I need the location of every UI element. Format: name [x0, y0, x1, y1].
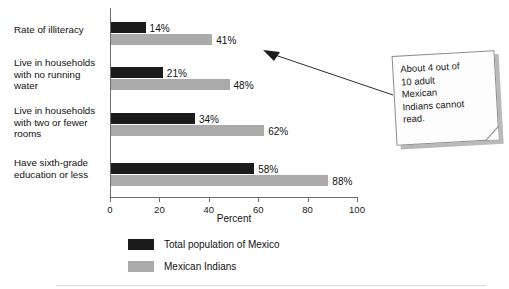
bar-chart-figure: Rate of illiteracy Live in households wi…: [0, 0, 509, 289]
category-label-line: water: [14, 80, 108, 92]
category-label-line: rooms: [14, 128, 108, 140]
x-axis-tick: [357, 198, 358, 202]
bar: [111, 79, 230, 90]
category-label-line: with no running: [14, 69, 108, 81]
bar-value-label: 41%: [216, 35, 236, 46]
note-curled-corner-icon: [483, 124, 500, 141]
x-axis-tick: [209, 198, 210, 202]
chart-legend: Total population of Mexico Mexican India…: [128, 236, 280, 280]
bar: [111, 125, 264, 136]
x-axis-tick: [308, 198, 309, 202]
legend-label: Total population of Mexico: [164, 239, 280, 250]
category-label-line: Live in households: [14, 57, 108, 69]
legend-item-mexican-indians: Mexican Indians: [128, 258, 280, 274]
bar-value-label: 58%: [258, 164, 278, 175]
x-axis-tick: [258, 198, 259, 202]
bar: [111, 22, 146, 33]
x-axis-tick: [110, 198, 111, 202]
bar: [111, 175, 328, 186]
callout-note: About 4 out of 10 adult Mexican Indians …: [392, 50, 500, 146]
note-text: About 4 out of 10 adult Mexican Indians …: [400, 59, 492, 127]
bar-value-label: 62%: [268, 126, 288, 137]
category-label-line: Have sixth-grade: [14, 157, 108, 169]
bar: [111, 113, 195, 124]
bar-value-label: 21%: [167, 68, 187, 79]
category-label-illiteracy: Rate of illiteracy: [14, 24, 108, 36]
bar-value-label: 14%: [150, 23, 170, 34]
legend-item-total-population: Total population of Mexico: [128, 236, 280, 252]
plot-area: 020406080100 14%41%21%48%34%62%58%88%: [110, 8, 358, 198]
x-axis-line: [110, 197, 358, 198]
x-axis-tick: [159, 198, 160, 202]
category-label-sixth-grade-education: Have sixth-grade education or less: [14, 157, 108, 180]
bar: [111, 34, 212, 45]
legend-label: Mexican Indians: [164, 261, 236, 272]
category-label-line: with two or fewer: [14, 117, 108, 129]
category-label-two-or-fewer-rooms: Live in households with two or fewer roo…: [14, 105, 108, 140]
x-axis-title: Percent: [110, 213, 358, 224]
bar-value-label: 88%: [332, 176, 352, 187]
legend-swatch-icon: [128, 239, 154, 250]
category-label-line: Live in households: [14, 105, 108, 117]
category-label-line: Rate of illiteracy: [14, 24, 108, 36]
bar-value-label: 48%: [234, 80, 254, 91]
category-label-line: education or less: [14, 169, 108, 181]
legend-swatch-icon: [128, 261, 154, 272]
bottom-divider: [56, 285, 486, 286]
bar: [111, 163, 254, 174]
category-label-no-running-water: Live in households with no running water: [14, 57, 108, 92]
bar-value-label: 34%: [199, 114, 219, 125]
bar: [111, 67, 163, 78]
